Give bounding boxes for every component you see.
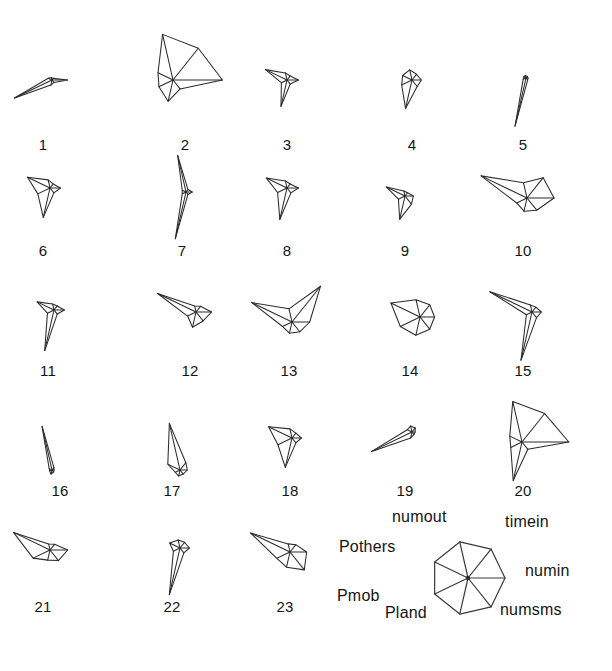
glyph-canvas <box>0 0 612 671</box>
glyph-spoke <box>420 317 430 329</box>
glyph-spoke <box>158 73 173 80</box>
glyph-spoke <box>33 550 50 558</box>
star-glyph <box>252 286 321 333</box>
glyph-spoke <box>196 306 201 312</box>
star-glyph <box>251 533 307 570</box>
glyph-index-label: 7 <box>178 242 187 259</box>
glyph-spoke <box>412 80 417 87</box>
glyph-spoke <box>406 80 412 108</box>
star-glyph <box>269 427 302 468</box>
glyph-spoke <box>278 438 292 445</box>
legend-spoke-Pmob <box>435 578 468 594</box>
glyph-index-label: 18 <box>281 482 298 499</box>
star-glyph <box>490 292 542 360</box>
glyph-spoke <box>510 436 522 442</box>
glyph-spoke <box>180 463 186 470</box>
glyph-index-label: 10 <box>514 242 531 259</box>
glyph-outline <box>42 426 54 474</box>
glyph-spoke <box>287 76 290 80</box>
glyph-outline <box>510 401 569 480</box>
axis-label-numin: numin <box>525 562 570 580</box>
glyph-spoke <box>159 80 173 87</box>
glyph-index-label: 1 <box>39 136 48 153</box>
glyph-spoke <box>158 294 196 313</box>
glyph-spoke <box>50 544 55 550</box>
glyph-index-label: 11 <box>40 362 56 379</box>
glyph-index-label: 5 <box>519 136 528 153</box>
glyph-spoke <box>289 309 292 322</box>
glyph-index-label: 21 <box>34 598 51 615</box>
glyph-spoke <box>277 552 290 558</box>
glyph-spoke <box>416 300 420 317</box>
glyph-index-label: 23 <box>276 598 293 615</box>
star-glyph <box>481 176 554 211</box>
glyph-spoke <box>173 48 198 80</box>
glyph-spoke <box>169 548 180 595</box>
glyph-index-label: 13 <box>280 362 297 379</box>
glyph-index-label: 4 <box>408 136 417 153</box>
glyph-spoke <box>289 322 292 333</box>
glyph-outline <box>515 75 528 126</box>
glyph-index-label: 19 <box>396 482 413 499</box>
axis-label-numsms: numsms <box>500 601 562 619</box>
glyph-spoke <box>532 307 536 312</box>
glyph-index-label: 20 <box>514 482 531 499</box>
glyph-spoke <box>173 80 180 89</box>
glyph-index-label: 15 <box>514 362 531 379</box>
glyph-spoke <box>290 552 304 570</box>
glyph-spoke <box>169 423 180 470</box>
star-glyph <box>37 302 64 351</box>
glyph-spoke <box>50 188 54 193</box>
star-glyph <box>158 34 222 101</box>
legend-reference-glyph <box>435 542 505 614</box>
glyph-spoke <box>287 80 290 84</box>
star-glyph <box>372 426 416 451</box>
glyph-spoke <box>180 548 184 553</box>
glyph-spoke <box>196 312 203 321</box>
axis-label-timein: timein <box>505 513 549 531</box>
glyph-spoke <box>180 542 185 548</box>
glyph-spoke <box>420 305 430 317</box>
glyph-outline <box>252 286 321 333</box>
glyph-spoke <box>43 188 50 217</box>
glyph-outline <box>28 177 61 217</box>
glyph-spoke <box>287 184 290 188</box>
glyph-index-label: 14 <box>401 362 418 379</box>
glyph-spoke <box>292 322 300 332</box>
legend-spoke-Pland <box>460 578 468 614</box>
glyph-spoke <box>287 552 290 567</box>
glyph-spoke <box>402 80 412 85</box>
glyph-spoke <box>522 442 528 449</box>
star-glyph <box>169 540 189 595</box>
glyph-spoke <box>511 442 522 447</box>
star-glyph <box>28 177 61 217</box>
star-glyph <box>402 70 422 109</box>
glyph-spoke <box>412 74 417 80</box>
glyph-spoke <box>513 442 522 481</box>
star-glyph <box>515 75 528 126</box>
glyph-spoke <box>400 317 420 326</box>
glyph-outline <box>158 34 222 101</box>
glyph-outline <box>266 178 298 219</box>
star-glyph <box>510 401 569 480</box>
glyph-index-label: 12 <box>181 362 198 379</box>
glyph-outline <box>15 77 68 98</box>
glyph-spoke <box>405 196 411 204</box>
glyph-index-label: 22 <box>163 598 180 615</box>
star-glyph <box>265 70 298 107</box>
glyph-spoke <box>532 312 537 318</box>
axis-label-numout: numout <box>392 508 447 526</box>
glyph-index-label: 6 <box>39 242 48 259</box>
glyph-index-label: 9 <box>401 242 410 259</box>
axis-label-Pothers: Pothers <box>339 538 396 556</box>
glyph-spoke <box>163 34 173 80</box>
glyph-spoke <box>527 198 537 210</box>
star-glyph <box>158 294 212 328</box>
axis-label-Pland: Pland <box>385 604 427 622</box>
legend-spoke-Pothers <box>435 562 468 578</box>
star-glyph <box>175 156 192 239</box>
glyph-spoke <box>416 317 420 335</box>
glyph-index-label: 8 <box>283 242 292 259</box>
glyph-spoke <box>285 438 292 467</box>
glyph-index-label: 2 <box>181 136 190 153</box>
